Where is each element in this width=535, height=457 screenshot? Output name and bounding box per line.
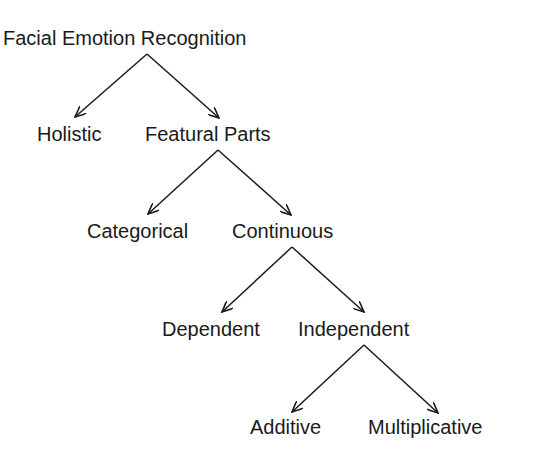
- arrow-root-holistic: [75, 54, 147, 117]
- node-dependent: Dependent: [162, 318, 260, 340]
- arrow-featural-continuous: [218, 150, 291, 215]
- node-categorical: Categorical: [87, 220, 188, 242]
- arrow-independent-additive: [292, 345, 364, 412]
- node-featural-parts: Featural Parts: [145, 123, 271, 145]
- arrow-root-featural: [147, 54, 219, 118]
- node-continuous: Continuous: [232, 220, 333, 242]
- node-additive: Additive: [250, 416, 321, 438]
- arrow-featural-categorical: [148, 150, 218, 214]
- node-multiplicative: Multiplicative: [368, 416, 482, 438]
- arrow-independent-multiplicative: [364, 345, 438, 413]
- arrow-continuous-dependent: [222, 247, 292, 312]
- node-holistic: Holistic: [37, 123, 101, 145]
- arrow-continuous-independent: [292, 247, 364, 312]
- node-root: Facial Emotion Recognition: [3, 27, 246, 49]
- node-independent: Independent: [298, 318, 409, 340]
